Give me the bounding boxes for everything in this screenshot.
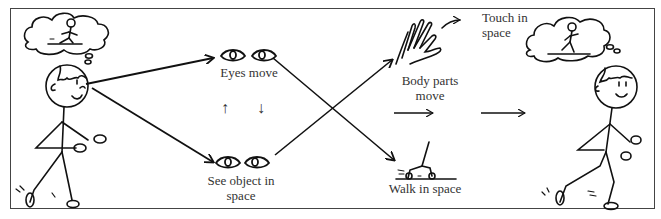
see-object-label: See object in space xyxy=(200,173,282,203)
child-end-figure xyxy=(527,17,641,209)
foot-icon xyxy=(396,142,456,179)
walk-label: Walk in space xyxy=(384,181,466,196)
hand-icon xyxy=(396,20,460,64)
body-parts-label-line1: Body parts xyxy=(390,73,470,88)
body-parts-label: Body parts move xyxy=(390,73,470,103)
touch-label: Touch in space xyxy=(482,10,542,40)
arrow-to-see-object xyxy=(92,88,213,162)
arrow-up-icon: ↑ xyxy=(218,100,232,115)
arrow-down-icon: ↓ xyxy=(254,100,268,115)
see-object-label-line2: space xyxy=(200,188,282,203)
eyes-icon xyxy=(221,50,276,61)
touch-label-line1: Touch in xyxy=(482,10,542,25)
eyes-icon xyxy=(216,157,269,168)
touch-label-line2: space xyxy=(482,25,542,40)
child-start-figure xyxy=(16,13,108,207)
eyes-move-label: Eyes move xyxy=(212,65,286,80)
diagram-art xyxy=(0,0,661,219)
body-parts-label-line2: move xyxy=(390,88,470,103)
see-object-label-line1: See object in xyxy=(200,173,282,188)
arrow-to-eyes-move xyxy=(86,58,213,84)
thought-cloud-icon xyxy=(25,13,109,54)
